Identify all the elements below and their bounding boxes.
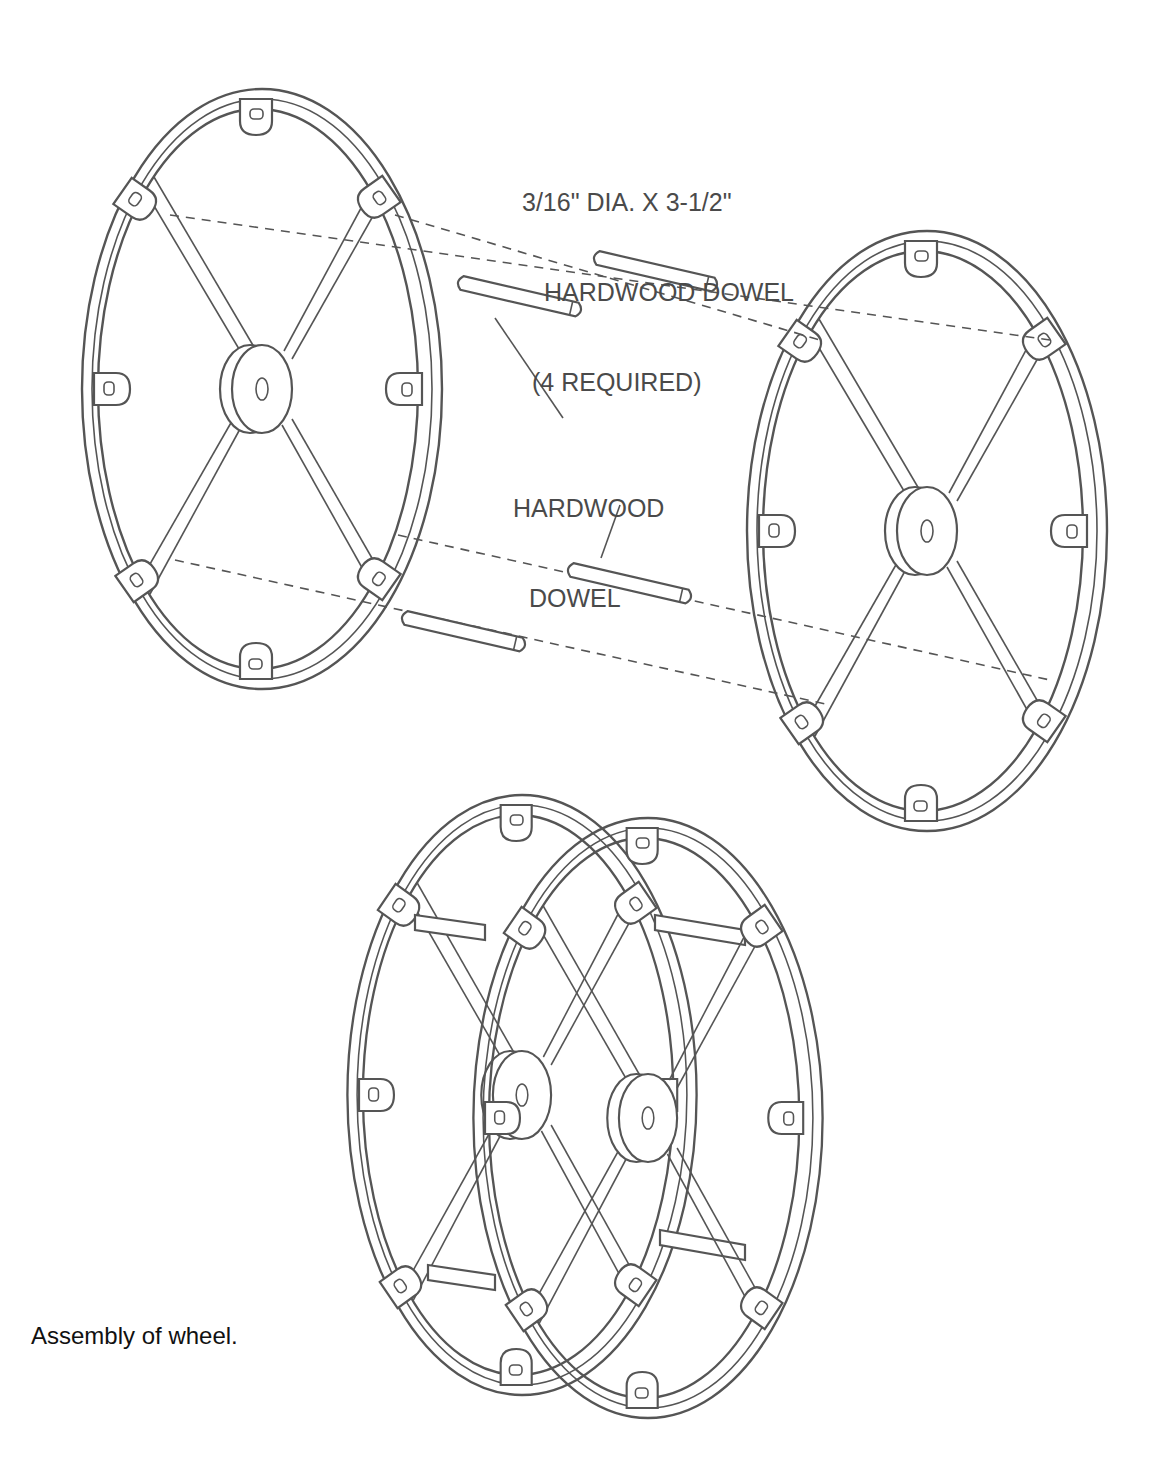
figure-caption: Assembly of wheel. bbox=[31, 1322, 238, 1350]
dowel-spec-line-1: 3/16" DIA. X 3-1/2" bbox=[522, 187, 794, 217]
dowel-spec-label: 3/16" DIA. X 3-1/2" HARDWOOD DOWEL (4 RE… bbox=[522, 127, 794, 427]
dowel-spec-line-2: HARDWOOD DOWEL bbox=[522, 277, 794, 307]
assembled-wheel bbox=[347, 795, 822, 1418]
right-wheel bbox=[747, 231, 1107, 831]
left-wheel bbox=[82, 89, 442, 689]
dowel-callout-line-1: HARDWOOD bbox=[513, 493, 664, 523]
dowel-spec-line-3: (4 REQUIRED) bbox=[522, 367, 794, 397]
dowel-callout-line-2: DOWEL bbox=[513, 583, 664, 613]
dowel-3 bbox=[401, 610, 527, 652]
dowel-callout-label: HARDWOOD DOWEL bbox=[513, 433, 664, 643]
